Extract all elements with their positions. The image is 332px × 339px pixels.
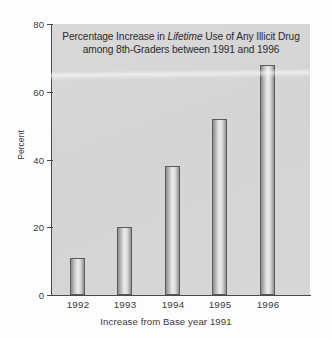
y-tick-label-80: 80 (4, 19, 44, 30)
y-tick-mark-60 (47, 92, 53, 93)
y-tick-label-60: 60 (4, 87, 44, 98)
y-tick-mark-40 (47, 160, 53, 161)
bar-1995 (212, 119, 227, 295)
chart-title-line1-italic: Lifetime (168, 31, 203, 42)
chart-title-line1-post: Use of Any Illicit Drug (202, 31, 299, 42)
y-tick-label-0: 0 (4, 290, 44, 301)
plot-area: Percentage Increase in Lifetime Use of A… (52, 24, 310, 295)
x-tick-label-1996: 1996 (244, 299, 292, 310)
chart-title: Percentage Increase in Lifetime Use of A… (52, 30, 310, 56)
bar-1993 (117, 227, 132, 295)
x-tick-label-1995: 1995 (196, 299, 244, 310)
bar-1992 (70, 258, 85, 295)
y-tick-mark-0 (47, 295, 53, 296)
y-tick-mark-20 (47, 227, 53, 228)
x-tick-label-1994: 1994 (149, 299, 197, 310)
bar-1996 (260, 65, 275, 295)
x-axis-title: Increase from Base year 1991 (0, 316, 332, 327)
x-tick-label-1992: 1992 (54, 299, 102, 310)
chart-figure: Percentage Increase in Lifetime Use of A… (0, 0, 332, 339)
y-tick-mark-80 (47, 24, 53, 25)
chart-title-line2: among 8th-Graders between 1991 and 1996 (83, 44, 280, 55)
x-tick-label-1993: 1993 (101, 299, 149, 310)
y-axis-title: Percent (16, 115, 26, 175)
x-axis-line (51, 295, 311, 296)
y-tick-label-20: 20 (4, 222, 44, 233)
bar-1994 (165, 166, 180, 295)
chart-title-line1-pre: Percentage Increase in (62, 31, 167, 42)
